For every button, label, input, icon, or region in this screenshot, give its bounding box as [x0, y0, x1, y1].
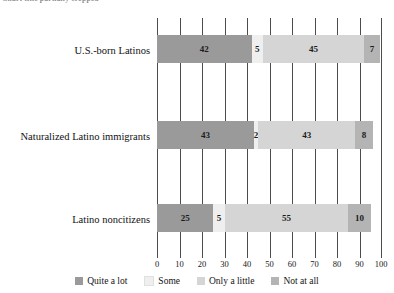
chart-legend: Quite a lotSomeOnly a littleNot at all [0, 276, 394, 286]
legend-item[interactable]: Some [144, 276, 180, 286]
legend-item[interactable]: Not at all [271, 276, 318, 286]
bar-segment: 55 [225, 204, 349, 232]
x-axis-tick-label: 60 [288, 259, 297, 269]
legend-swatch-icon [197, 277, 205, 285]
table-row: 425457 [157, 35, 382, 63]
x-axis-tick [157, 251, 158, 258]
bar-segment-value: 45 [309, 45, 318, 54]
bar-segment-value: 25 [181, 214, 190, 223]
bar-segment: 5 [213, 204, 224, 232]
x-axis-tick-label: 20 [198, 259, 207, 269]
bar-segment-value: 5 [217, 214, 222, 223]
y-axis-label-2: Latino noncitizens [0, 214, 150, 225]
x-axis-tick [360, 251, 361, 258]
x-axis-tick [270, 251, 271, 258]
bar-segment-value: 10 [355, 214, 364, 223]
legend-item[interactable]: Quite a lot [75, 276, 127, 286]
bar-segment-value: 7 [370, 45, 375, 54]
x-axis-tick [337, 251, 338, 258]
x-axis-tick-label: 90 [355, 259, 364, 269]
legend-label: Not at all [283, 276, 318, 286]
x-axis-tick-label: 30 [220, 259, 229, 269]
plot-area: 425457 432438 2555510 [157, 18, 382, 251]
x-axis-tick [315, 251, 316, 258]
legend-label: Some [158, 276, 180, 286]
bar-segment: 10 [348, 204, 371, 232]
x-axis-tick [292, 251, 293, 258]
bar-segment: 7 [364, 35, 380, 63]
x-axis-tick-label: 80 [333, 259, 342, 269]
x-axis-tick [202, 251, 203, 258]
bar-segment-value: 42 [200, 45, 209, 54]
bar-segment-value: 8 [362, 131, 367, 140]
x-axis-tick [381, 251, 382, 258]
legend-label: Quite a lot [87, 276, 127, 286]
bar-segment-value: 43 [302, 131, 311, 140]
x-axis-tick-label: 100 [375, 259, 388, 269]
legend-item[interactable]: Only a little [197, 276, 254, 286]
x-axis-tick-label: 10 [175, 259, 184, 269]
x-axis-tick [225, 251, 226, 258]
legend-label: Only a little [209, 276, 254, 286]
y-axis-label-0: U.S.-born Latinos [0, 45, 150, 56]
legend-swatch-icon [271, 277, 279, 285]
legend-swatch-icon [75, 277, 83, 285]
x-axis-tick [247, 251, 248, 258]
bar-segment-value: 43 [201, 131, 210, 140]
x-axis-tick [180, 251, 181, 258]
x-axis-tick-label: 40 [243, 259, 252, 269]
x-axis-tick-label: 50 [265, 259, 274, 269]
bar-segment: 8 [355, 121, 373, 149]
bar-segment-value: 55 [282, 214, 291, 223]
x-axis-tick-label: 70 [310, 259, 319, 269]
legend-swatch-icon [144, 276, 154, 286]
stacked-bar-chart-figure: U.S.-born Latinos Naturalized Latino imm… [0, 0, 394, 293]
bar-segment: 43 [157, 121, 254, 149]
x-axis: 0102030405060708090100 [157, 251, 382, 273]
bar-segment: 45 [263, 35, 364, 63]
bar-segment: 25 [157, 204, 213, 232]
bar-segment: 42 [157, 35, 252, 63]
y-axis-label-1: Naturalized Latino immigrants [0, 131, 150, 142]
x-axis-tick-label: 0 [155, 259, 159, 269]
bar-segment-value: 5 [255, 45, 260, 54]
bar-segment: 5 [252, 35, 263, 63]
table-row: 2555510 [157, 204, 382, 232]
bar-segment: 43 [258, 121, 355, 149]
table-row: 432438 [157, 121, 382, 149]
